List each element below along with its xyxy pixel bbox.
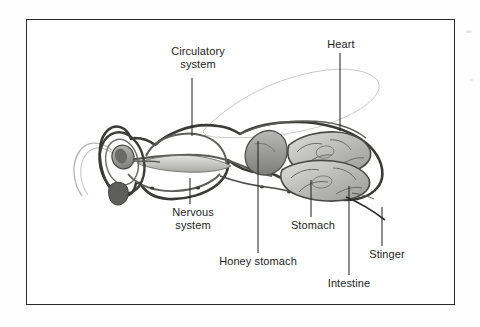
label-intestine: Intestine: [318, 277, 380, 290]
label-circulatory-system: Circulatory system: [158, 45, 238, 70]
ganglion: [150, 187, 154, 190]
label-stinger: Stinger: [357, 248, 417, 261]
label-nervous-system: Nervous system: [158, 206, 228, 231]
proboscis-base: [109, 182, 129, 205]
figure-page: Circulatory system Heart Nervous system …: [0, 0, 480, 327]
label-stomach: Stomach: [282, 219, 344, 232]
label-heart: Heart: [311, 38, 371, 51]
stinger: [346, 197, 385, 220]
label-honey-stomach: Honey stomach: [207, 255, 309, 268]
bee-body-group: [74, 53, 385, 275]
oesophagus: [133, 161, 160, 162]
ganglion: [196, 187, 200, 190]
bee-anatomy-illustration: [0, 0, 480, 327]
